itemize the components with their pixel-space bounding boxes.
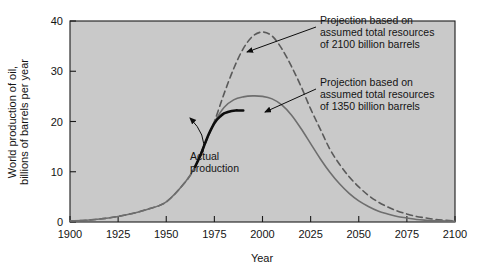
x-tick-label: 2075 (395, 228, 419, 240)
x-tick-label: 2025 (298, 228, 322, 240)
plot-background-group (70, 21, 455, 222)
x-tick-label: 1975 (202, 228, 226, 240)
annotation-2100-billion-line: assumed total resources (320, 26, 434, 38)
y-axis-title-line1: World production of oil, (6, 66, 18, 178)
annotation-actual-production-line: production (190, 162, 239, 174)
y-tick-label: 10 (51, 166, 63, 178)
annotation-actual-production-line: Actual (190, 150, 219, 162)
annotation-1350-billion-line: assumed total resources (320, 88, 434, 100)
y-tick-label: 40 (51, 15, 63, 27)
oil-production-figure: 010203040 190019251950197520002025205020… (0, 0, 480, 269)
x-tick-label: 1925 (106, 228, 130, 240)
y-tick-label: 0 (57, 216, 63, 228)
x-tick-label: 1900 (58, 228, 82, 240)
annotation-2100-billion-line: of 2100 billion barrels (320, 38, 420, 50)
y-axis-title-line2: billions of barrels per year (18, 59, 30, 185)
x-tick-label: 2000 (250, 228, 274, 240)
x-axis-title: Year (251, 252, 274, 264)
world-oil-production-chart: 010203040 190019251950197520002025205020… (0, 0, 480, 269)
x-tick-label: 2050 (347, 228, 371, 240)
x-tick-label: 1950 (154, 228, 178, 240)
y-tick-label: 20 (51, 116, 63, 128)
annotation-2100-billion-line: Projection based on (320, 14, 413, 26)
y-tick-label: 30 (51, 65, 63, 77)
annotation-1350-billion-line: Projection based on (320, 76, 413, 88)
plot-area-background (70, 21, 455, 222)
x-tick-label: 2100 (443, 228, 467, 240)
annotation-1350-billion-line: of 1350 billion barrels (320, 100, 420, 112)
